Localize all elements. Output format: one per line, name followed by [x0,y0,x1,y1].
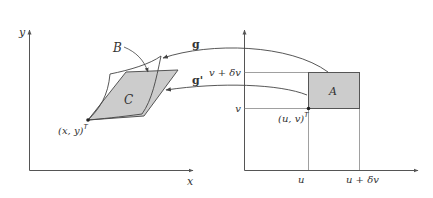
point-uv [307,107,311,111]
left-y-axis-label: y [18,26,26,39]
mapping-g-arrow [163,48,328,72]
x-tick-u: u [298,174,304,185]
b-pointer-arrow [124,47,148,72]
mapping-g-label: g [192,38,200,51]
left-x-axis-label: x [187,175,194,188]
y-tick-v-delta: v + δv [209,67,241,78]
region-a-label: A [328,85,337,98]
point-xy [86,118,90,122]
point-xy-label: (x, y)T [58,123,88,136]
x-tick-u-delta: u + δv [346,174,379,185]
y-tick-v: v [235,103,241,114]
region-c-label: C [124,93,133,107]
point-uv-label: (u, v)T [278,111,309,124]
mapping-g-prime-arrow [166,85,307,95]
region-b-label: B [112,41,122,55]
mapping-g-prime-label: g' [192,74,203,87]
diagram-canvas: y x C B (x, y)T A (u, v)T v + δv v u u +… [0,0,433,198]
